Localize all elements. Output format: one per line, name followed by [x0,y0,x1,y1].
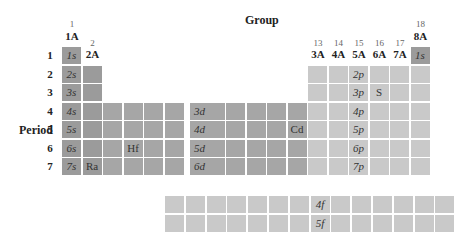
f-block-cell [435,196,454,213]
group-number: 1 [62,19,82,29]
s-block-cell: 1s [62,47,81,64]
s-block-cell: Ra [83,158,102,175]
group-number: 18 [411,19,431,29]
d-block-cell [103,103,122,120]
p-block-cell [329,140,348,157]
p-block-cell: 6p [349,140,368,157]
group-label: 6A [370,48,390,60]
d-block-cell [267,158,286,175]
f-block-cell [373,196,392,213]
f-block-cell: 5f [311,215,330,232]
f-block-cell [394,196,413,213]
s-block-cell: 3s [62,84,81,101]
group-label: 8A [411,30,431,42]
d-block-cell [247,158,266,175]
period-number: 3 [44,86,56,98]
f-block-cell [269,215,288,232]
p-block-cell [329,84,348,101]
p-block-cell [411,103,430,120]
d-block-cell [165,158,184,175]
f-block-cell [331,215,350,232]
d-block-cell [165,121,184,138]
f-block-cell [290,215,309,232]
f-block-cell [373,215,392,232]
p-block-cell: 7p [349,158,368,175]
f-block-cell [248,215,267,232]
p-block-cell [370,121,389,138]
s-block-cell: 4s [62,103,81,120]
f-block-cell [415,215,434,232]
p-block-cell [329,103,348,120]
s-block-cell: 6s [62,140,81,157]
s-block-cell [83,121,102,138]
d-block-cell [267,103,286,120]
group-number: 2 [83,38,103,48]
d-block-cell [226,140,245,157]
p-block-cell [390,140,409,157]
p-block-cell [329,121,348,138]
d-block-cell [206,158,225,175]
s-block-cell: 5s [62,121,81,138]
p-block-cell [390,158,409,175]
f-block-cell: 4f [311,196,330,213]
d-block-cell [226,158,245,175]
f-block-cell [165,215,184,232]
d-block-cell [206,140,225,157]
s-block-cell: 7s [62,158,81,175]
p-block-cell [411,140,430,157]
period-number: 2 [44,68,56,80]
p-block-cell [308,103,327,120]
p-block-cell [370,158,389,175]
f-block-cell [248,196,267,213]
f-block-cell [331,196,350,213]
period-number: 6 [44,142,56,154]
d-block-cell [165,140,184,157]
period-number: 4 [44,105,56,117]
period-number: 5 [44,123,56,135]
p-block-cell [308,121,327,138]
p-block-cell [308,158,327,175]
d-block-cell [267,121,286,138]
p-block-cell [308,140,327,157]
group-number: 17 [390,38,410,48]
group-number: 16 [370,38,390,48]
p-block-cell [411,121,430,138]
d-block-cell [103,140,122,157]
f-block-cell [290,196,309,213]
f-block-cell [269,196,288,213]
s-block-cell: 1s [411,47,430,64]
p-block-cell: 5p [349,121,368,138]
s-block-cell [83,103,102,120]
group-label: 2A [83,48,103,60]
f-block-cell [227,215,246,232]
group-number: 15 [349,38,369,48]
p-block-cell [390,103,409,120]
d-block-cell [144,103,163,120]
group-label: 7A [390,48,410,60]
f-block-cell [165,196,184,213]
s-block-cell: 2s [62,66,81,83]
d-block-cell [103,158,122,175]
d-block-cell [144,140,163,157]
d-block-cell [247,140,266,157]
f-block-cell [207,215,226,232]
f-block-cell [207,196,226,213]
s-block-cell [83,66,102,83]
d-block-cell [124,103,143,120]
d-block-cell [288,158,307,175]
p-block-cell [411,158,430,175]
p-block-cell [390,121,409,138]
d-block-cell [124,121,143,138]
p-block-cell [370,103,389,120]
p-block-cell [329,158,348,175]
group-number: 14 [329,38,349,48]
period-number: 1 [44,49,56,61]
p-block-cell [411,66,430,83]
d-block-cell: Hf [124,140,143,157]
d-block-cell [247,103,266,120]
group-label: 4A [329,48,349,60]
p-block-cell: 3p [349,84,368,101]
group-title: Group [245,13,279,28]
d-block-cell [144,121,163,138]
s-block-cell [83,140,102,157]
